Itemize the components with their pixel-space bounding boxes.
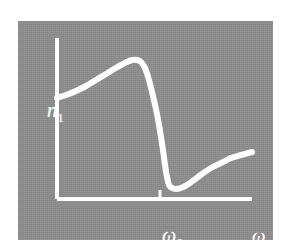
resonance-frequency-label: ω0 <box>162 225 183 240</box>
plot-panel: n1 ω0 ω <box>18 21 273 240</box>
y-axis-label-text: n <box>47 99 57 121</box>
figure-root: n1 ω0 ω <box>0 0 290 251</box>
resonance-frequency-subscript: 0 <box>177 236 183 240</box>
x-axis-label: ω <box>252 226 265 240</box>
resonance-frequency-symbol: ω <box>162 224 176 240</box>
dispersion-curve-svg <box>18 21 273 240</box>
y-axis-label: n1 <box>47 100 64 124</box>
dispersion-curve <box>57 60 252 189</box>
y-axis-label-subscript: 1 <box>58 111 64 125</box>
